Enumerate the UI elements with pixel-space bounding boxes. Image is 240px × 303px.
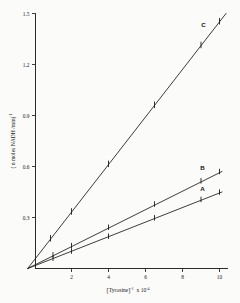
y-tick-label-3: 0.9 — [23, 113, 30, 119]
x-tick-label-4: 8 — [181, 274, 184, 280]
series-label-c: C — [201, 21, 206, 28]
svg-text:( n moles NADH /min)-1: ( n moles NADH /min)-1 — [9, 113, 16, 168]
x-axis-analyte: Tyrosine — [109, 287, 129, 293]
x-axis-multiplier-exponent: -4 — [146, 287, 149, 291]
x-axis-title: [Tyrosine]-1 x 10-4 — [107, 286, 150, 294]
y-tick-label-1: 0.3 — [23, 215, 30, 221]
x-tick-label-3: 6 — [144, 274, 147, 280]
x-tick-label-2: 4 — [107, 274, 110, 280]
series-a-group: A — [28, 185, 222, 269]
x-tick-label-5: 10 — [217, 274, 223, 280]
x-tick-marks — [72, 269, 220, 273]
svg-text:[Tyrosine]-1 x 10-4: [Tyrosine]-1 x 10-4 — [107, 286, 150, 294]
plot-canvas: 0.3 0.6 0.9 1.2 1.5 2 4 6 8 10 — [0, 0, 240, 303]
series-label-b: B — [200, 164, 205, 171]
x-axis-multiplier: x 10 — [136, 287, 146, 293]
x-tick-label-1: 2 — [70, 274, 73, 280]
y-axis-title: ( n moles NADH /min)-1 — [9, 113, 16, 168]
series-a-points — [53, 189, 220, 261]
series-c-line — [28, 14, 226, 269]
series-label-a: A — [200, 185, 205, 192]
y-axis-title-text: ( n moles NADH /min) — [10, 117, 17, 169]
y-tick-label-5: 1.5 — [23, 11, 30, 17]
series-c-points — [51, 18, 220, 242]
axis-group — [36, 14, 229, 269]
lineweaver-burk-figure: 0.3 0.6 0.9 1.2 1.5 2 4 6 8 10 — [0, 0, 240, 303]
x-tick-labels: 2 4 6 8 10 — [70, 274, 222, 280]
series-b-line — [28, 172, 222, 269]
y-tick-label-4: 1.2 — [23, 62, 30, 68]
y-tick-labels: 0.3 0.6 0.9 1.2 1.5 — [23, 11, 30, 221]
series-a-line — [28, 192, 222, 269]
series-c-group: C — [28, 14, 226, 269]
series-b-group: B — [28, 164, 222, 269]
y-tick-marks — [32, 14, 36, 218]
y-tick-label-2: 0.6 — [23, 164, 30, 170]
y-axis-title-exponent: -1 — [9, 113, 13, 116]
series-b-points — [53, 169, 220, 258]
